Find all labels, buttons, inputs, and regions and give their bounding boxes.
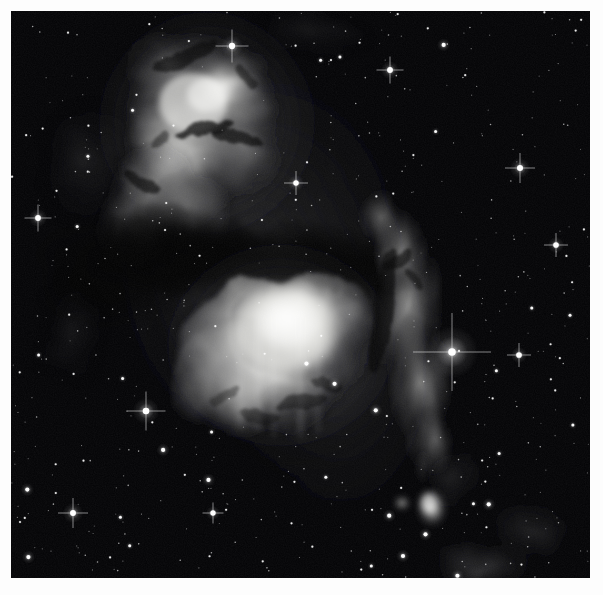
star xyxy=(453,142,454,143)
star xyxy=(390,12,391,13)
star xyxy=(580,397,581,398)
star xyxy=(458,459,460,461)
star xyxy=(580,550,581,551)
star xyxy=(336,53,344,61)
star xyxy=(413,259,414,260)
star xyxy=(89,171,91,173)
star xyxy=(548,562,550,564)
star xyxy=(189,331,190,332)
star-field xyxy=(11,11,590,578)
star xyxy=(364,77,366,79)
star xyxy=(311,205,313,207)
star xyxy=(328,63,329,64)
star xyxy=(130,193,131,194)
star xyxy=(555,356,556,357)
star xyxy=(346,434,348,436)
bright-star-in-nebula xyxy=(216,30,249,63)
star xyxy=(148,518,149,519)
star xyxy=(367,562,375,570)
star xyxy=(360,39,361,40)
star xyxy=(67,312,71,316)
star xyxy=(577,104,578,105)
star xyxy=(558,522,560,524)
star xyxy=(293,43,297,47)
star xyxy=(380,508,381,509)
star xyxy=(70,117,72,119)
star xyxy=(382,574,384,576)
star xyxy=(551,314,552,315)
star xyxy=(365,509,366,510)
star xyxy=(568,226,569,227)
star xyxy=(289,192,290,193)
star xyxy=(470,412,471,413)
star xyxy=(345,490,346,491)
star xyxy=(319,199,320,200)
star xyxy=(548,70,549,71)
star xyxy=(516,406,518,408)
star xyxy=(283,476,284,477)
star xyxy=(97,263,98,264)
star xyxy=(333,454,334,455)
star xyxy=(220,218,221,219)
star xyxy=(569,19,571,21)
star xyxy=(515,291,516,292)
bright-star-far-east xyxy=(505,153,535,183)
star xyxy=(316,437,317,438)
star xyxy=(253,498,254,499)
star xyxy=(257,174,258,175)
star xyxy=(313,42,315,44)
star xyxy=(289,521,293,525)
star xyxy=(459,275,461,277)
star xyxy=(117,570,119,572)
star xyxy=(276,516,277,517)
star xyxy=(387,558,388,559)
star xyxy=(388,34,390,36)
star xyxy=(466,286,468,288)
star xyxy=(579,18,583,22)
star xyxy=(68,277,69,278)
star xyxy=(329,149,331,151)
star xyxy=(42,548,43,549)
star xyxy=(283,152,284,153)
star xyxy=(179,233,181,235)
star xyxy=(119,449,120,450)
star xyxy=(401,170,403,172)
star xyxy=(55,216,56,217)
star xyxy=(563,292,565,294)
star xyxy=(369,132,371,134)
star xyxy=(529,278,530,279)
star xyxy=(39,205,40,206)
star xyxy=(211,460,212,461)
bright-star-east-mid xyxy=(544,233,568,257)
star xyxy=(86,123,90,127)
star xyxy=(242,479,244,481)
star xyxy=(584,174,585,175)
star xyxy=(525,520,526,521)
star xyxy=(17,412,18,413)
star xyxy=(89,460,91,462)
star xyxy=(206,263,207,264)
star xyxy=(186,528,187,529)
star xyxy=(308,434,309,435)
star xyxy=(171,123,175,127)
star xyxy=(103,192,104,193)
star xyxy=(540,492,541,493)
star xyxy=(51,265,52,266)
star xyxy=(52,260,53,261)
star xyxy=(86,139,87,140)
star xyxy=(347,234,348,235)
star xyxy=(292,480,296,484)
star xyxy=(332,173,333,174)
star xyxy=(481,303,482,304)
star xyxy=(145,310,146,311)
star xyxy=(288,471,289,472)
star xyxy=(93,533,94,534)
star xyxy=(482,498,495,511)
star xyxy=(118,542,120,544)
star xyxy=(112,308,114,310)
star xyxy=(41,358,42,359)
star xyxy=(88,148,89,149)
star xyxy=(52,474,53,475)
star xyxy=(24,133,28,137)
star xyxy=(493,364,495,366)
